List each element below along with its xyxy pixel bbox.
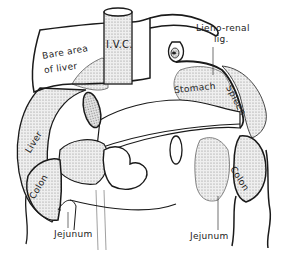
- mesentery-edge: [70, 200, 176, 210]
- label-jejunum-right: Jejunum: [190, 232, 229, 241]
- jejunum-right-shape: [195, 138, 230, 201]
- anatomy-diagram: I.V.C. Bare area of liver Lieno-renal li…: [0, 0, 283, 254]
- duodenum-opening: [80, 91, 104, 130]
- small-intestine-loop: [103, 147, 147, 189]
- label-jejunum-left: Jejunum: [54, 230, 93, 239]
- bowel-stump: [170, 136, 182, 164]
- bare-area-shape: [72, 58, 108, 90]
- diagram-drawing: [0, 0, 283, 254]
- ivc-top: [104, 8, 132, 16]
- duodenum-shape: [58, 140, 108, 185]
- label-lienorenal-1: Lieno-renal: [196, 24, 250, 33]
- label-lienorenal-2: lig.: [214, 35, 229, 44]
- label-ivc: I.V.C.: [106, 40, 133, 50]
